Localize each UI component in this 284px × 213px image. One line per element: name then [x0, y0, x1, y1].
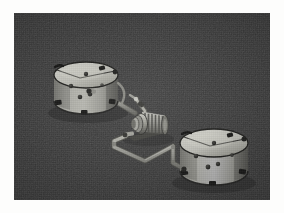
hit-tank-left[interactable]: [54, 62, 122, 114]
hit-tank-right[interactable]: [180, 129, 252, 187]
image-canvas: [0, 0, 284, 213]
hit-pump-motor-unit[interactable]: [128, 96, 172, 134]
